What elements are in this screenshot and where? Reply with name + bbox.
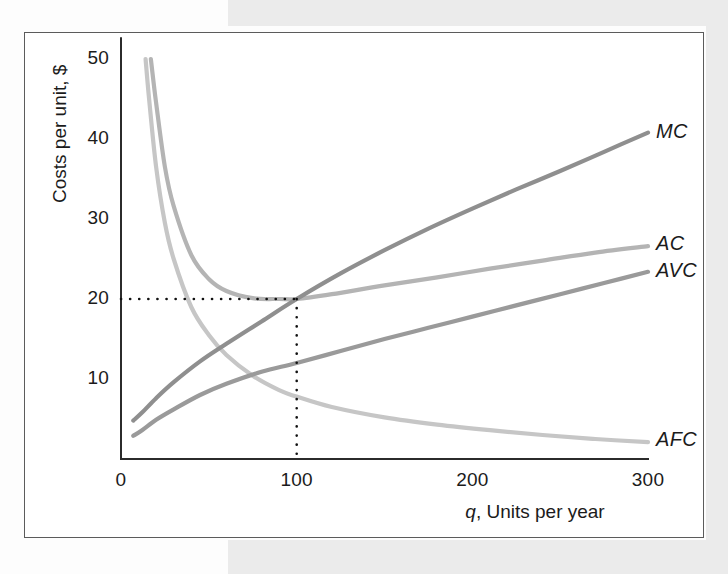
- curve-label-mc: MC: [656, 120, 688, 143]
- x-tick-label-300: 300: [618, 469, 678, 491]
- chart-plot-area: Costs per unit, $ 50 40 30 20 10 0 100 2…: [25, 33, 705, 539]
- x-tick-label-200: 200: [442, 469, 502, 491]
- figure-frame: Costs per unit, $ 50 40 30 20 10 0 100 2…: [24, 32, 704, 538]
- x-axis-title-text: , Units per year: [476, 501, 605, 522]
- y-tick-label-10: 10: [65, 367, 109, 389]
- curve-ac: [151, 59, 648, 299]
- x-tick-label-0: 0: [91, 469, 151, 491]
- y-tick-label-40: 40: [65, 127, 109, 149]
- curve-label-avc: AVC: [656, 259, 697, 282]
- page-canvas: Costs per unit, $ 50 40 30 20 10 0 100 2…: [0, 0, 728, 574]
- x-axis-title: q, Units per year: [465, 501, 604, 523]
- scan-artifact-band-top: [228, 0, 728, 26]
- scan-artifact-band-bottom: [228, 540, 706, 574]
- curve-mc: [133, 133, 648, 421]
- y-tick-label-30: 30: [65, 207, 109, 229]
- x-tick-label-100: 100: [267, 469, 327, 491]
- x-axis-title-variable: q: [465, 501, 476, 522]
- curve-label-afc: AFC: [656, 428, 697, 451]
- curve-label-ac: AC: [656, 232, 684, 255]
- y-tick-label-20: 20: [65, 287, 109, 309]
- scan-artifact-band-right: [706, 0, 728, 574]
- y-tick-label-50: 50: [65, 47, 109, 69]
- cost-curves-svg: [25, 33, 705, 539]
